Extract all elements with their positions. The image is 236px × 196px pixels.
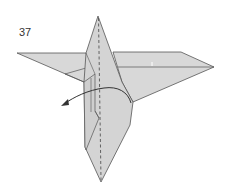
origami-diagram: [0, 0, 236, 196]
central-body: [84, 16, 133, 182]
